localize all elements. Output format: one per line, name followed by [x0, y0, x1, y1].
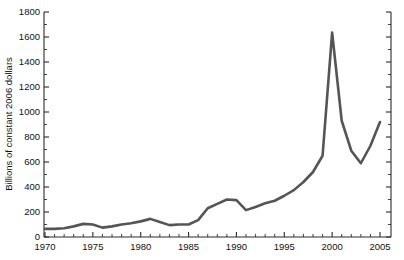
x-tick-label: 2005: [369, 241, 390, 252]
y-axis-group: 020040060080010001200140016001800 Billio…: [3, 6, 49, 242]
y-tick-label: 1200: [19, 81, 40, 92]
x-tick-label: 1980: [130, 241, 151, 252]
y-axis-title: Billions of constant 2006 dollars: [3, 57, 14, 191]
y-tick-label: 400: [24, 181, 40, 192]
x-tick-label: 2000: [322, 241, 343, 252]
y-axis-tick-labels: 020040060080010001200140016001800: [19, 6, 40, 242]
right-axis-group: [386, 12, 391, 237]
x-tick-label: 1990: [226, 241, 247, 252]
x-axis-tick-labels: 19701975198019851990199520002005: [34, 241, 390, 252]
chart-figure: 020040060080010001200140016001800 Billio…: [0, 0, 404, 260]
x-tick-label: 1995: [274, 241, 295, 252]
y-tick-label: 1000: [19, 106, 40, 117]
x-axis-group: 19701975198019851990199520002005: [34, 232, 391, 252]
y-tick-label: 600: [24, 156, 40, 167]
x-tick-label: 1975: [82, 241, 103, 252]
y-tick-label: 200: [24, 206, 40, 217]
data-series-line: [45, 33, 380, 229]
y-tick-label: 1400: [19, 56, 40, 67]
x-axis-major-ticks: [45, 232, 380, 237]
line-chart-svg: 020040060080010001200140016001800 Billio…: [0, 0, 404, 260]
y-tick-label: 1800: [19, 6, 40, 17]
x-tick-label: 1985: [178, 241, 199, 252]
y-tick-label: 1600: [19, 31, 40, 42]
plot-area: [45, 33, 380, 229]
x-tick-label: 1970: [34, 241, 55, 252]
y-tick-label: 800: [24, 131, 40, 142]
